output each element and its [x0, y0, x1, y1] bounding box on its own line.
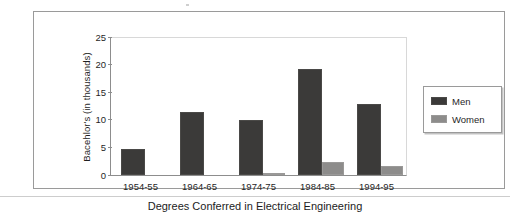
y-axis-tick-label: 25 [95, 32, 106, 43]
bar-group [111, 37, 170, 175]
bar-women-1984-85[interactable] [322, 162, 344, 175]
bar-group [170, 37, 229, 175]
chart-screenshot: Bacehlor's (in thousands) Men Women 2520… [0, 0, 510, 214]
figure-frame: Bacehlor's (in thousands) Men Women 2520… [33, 11, 505, 189]
legend-item-women[interactable]: Women [431, 113, 485, 125]
bar-men-1974-75[interactable] [239, 120, 263, 175]
legend-swatch-men-icon [431, 97, 447, 105]
y-axis-tick-5: 5 [86, 142, 106, 153]
y-axis-tick-label: 0 [101, 170, 106, 181]
y-axis-tick-mark [108, 119, 112, 120]
bar-women-1994-95[interactable] [381, 166, 403, 175]
x-axis-tick-1954-55: 1954-55 [111, 181, 170, 193]
y-axis-tick-mark [108, 37, 112, 38]
y-axis-tick-label: 20 [95, 59, 106, 70]
y-axis-tick-mark [108, 92, 112, 93]
bar-women-1974-75[interactable] [263, 173, 285, 175]
bar-men-1994-95[interactable] [357, 104, 381, 175]
bar-group [229, 37, 288, 175]
y-axis-tick-mark [108, 147, 112, 148]
y-axis-tick-mark [108, 175, 112, 176]
top-rule-mark [186, 4, 189, 6]
y-axis-tick-25: 25 [86, 32, 106, 43]
y-axis-tick-0: 0 [86, 170, 106, 181]
legend-swatch-women-icon [431, 115, 447, 123]
y-axis-tick-20: 20 [86, 59, 106, 70]
y-axis-title: Bacehlor's (in thousands) [81, 32, 95, 182]
x-axis-tick-1984-85: 1984-85 [288, 181, 347, 193]
y-axis-tick-label: 10 [95, 114, 106, 125]
bar-men-1954-55[interactable] [121, 149, 145, 175]
y-axis-tick-mark [108, 64, 112, 65]
chart-caption: Degrees Conferred in Electrical Engineer… [0, 200, 510, 214]
y-axis-tick-label: 5 [101, 142, 106, 153]
y-axis-tick-label: 15 [95, 87, 106, 98]
x-axis-tick-1994-95: 1994-95 [347, 181, 406, 193]
bars-layer [111, 37, 406, 175]
legend-item-men[interactable]: Men [431, 95, 470, 107]
bar-group [288, 37, 347, 175]
bar-men-1984-85[interactable] [298, 69, 322, 175]
bar-men-1964-65[interactable] [180, 112, 204, 175]
y-axis-tick-10: 10 [86, 114, 106, 125]
x-axis-tick-1964-65: 1964-65 [170, 181, 229, 193]
chart-legend: Men Women [423, 86, 502, 133]
bottom-divider [0, 196, 510, 197]
bar-group [347, 37, 406, 175]
y-axis-tick-15: 15 [86, 87, 106, 98]
legend-label-women: Women [452, 114, 485, 125]
legend-label-men: Men [452, 96, 470, 107]
x-axis-tick-1974-75: 1974-75 [229, 181, 288, 193]
